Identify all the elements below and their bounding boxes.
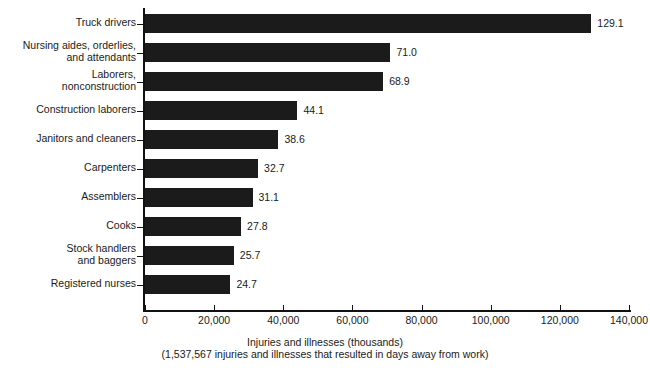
x-tick-label: 60,000: [336, 314, 368, 326]
x-tick-mark: [352, 305, 353, 311]
x-tick-label: 100,000: [472, 314, 510, 326]
x-tick-mark: [422, 305, 423, 311]
x-tick-label: 20,000: [198, 314, 230, 326]
x-tick-label: 0: [142, 314, 148, 326]
x-tick-mark: [214, 305, 215, 311]
x-axis-sublabel: (1,537,567 injuries and illnesses that r…: [0, 348, 650, 360]
x-tick-label: 80,000: [406, 314, 438, 326]
x-tick-label: 140,000: [610, 314, 648, 326]
x-tick-label: 40,000: [267, 314, 299, 326]
x-tick-mark: [560, 305, 561, 311]
x-tick-mark: [145, 305, 146, 311]
x-tick-mark: [491, 305, 492, 311]
x-axis-ticks: 020,00040,00060,00080,000100,000120,0001…: [0, 0, 650, 372]
x-tick-label: 120,000: [541, 314, 579, 326]
x-tick-mark: [629, 305, 630, 311]
bar-chart: Truck drivers129.1Nursing aides, orderli…: [0, 0, 650, 372]
x-tick-mark: [283, 305, 284, 311]
x-axis-label: Injuries and illnesses (thousands): [0, 336, 650, 348]
